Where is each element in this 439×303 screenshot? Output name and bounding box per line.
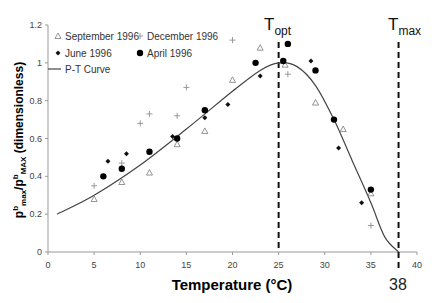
data-point-december-1996: [119, 160, 125, 166]
legend-label: December 1996: [147, 31, 219, 42]
data-point-april-1996: [146, 149, 152, 155]
x-tick-label: 30: [320, 260, 330, 270]
data-point-april-1996: [202, 107, 208, 113]
y-tick-label: 0: [37, 247, 42, 257]
legend-label: P-T Curve: [65, 64, 111, 75]
data-point-june-1996: [105, 159, 110, 164]
data-point-april-1996: [280, 58, 286, 64]
x-tick-label: 25: [274, 260, 284, 270]
legend-label: April 1996: [147, 48, 192, 59]
y-tick-label: 0.4: [29, 171, 42, 181]
legend-marker: [56, 51, 61, 56]
data-point-april-1996: [252, 60, 258, 66]
x-tick-label: 5: [92, 260, 97, 270]
data-point-april-1996: [368, 186, 374, 192]
legend: September 1996December 1996June 1996Apri…: [48, 31, 219, 75]
reference-lines: [279, 42, 399, 272]
x-tick-label: 20: [227, 260, 237, 270]
data-point-september-1996: [174, 141, 180, 147]
y-tick-label: 0.2: [29, 209, 42, 219]
data-point-june-1996: [124, 151, 129, 156]
x-tick-label: 35: [366, 260, 376, 270]
pt-curve-chart: 051015202530354000.20.40.60.811.2 Septem…: [0, 0, 439, 303]
data-point-september-1996: [202, 128, 208, 134]
data-points: [91, 37, 374, 228]
data-point-december-1996: [183, 84, 189, 90]
topt-label: Topt: [264, 15, 292, 38]
data-point-april-1996: [174, 135, 180, 141]
data-point-june-1996: [308, 58, 313, 63]
x-tick-label: 10: [135, 260, 145, 270]
data-point-september-1996: [230, 77, 236, 83]
legend-marker: [137, 50, 143, 56]
data-point-april-1996: [285, 41, 291, 47]
data-point-june-1996: [225, 102, 230, 107]
data-point-december-1996: [91, 183, 97, 189]
data-point-december-1996: [137, 120, 143, 126]
y-tick-label: 1.2: [29, 20, 42, 30]
y-tick-label: 0.6: [29, 134, 42, 144]
data-point-december-1996: [230, 37, 236, 43]
legend-marker: [55, 33, 61, 39]
pt-curve-line: [57, 63, 398, 252]
x-tick-label: 15: [181, 260, 191, 270]
data-point-december-1996: [146, 111, 152, 117]
data-point-june-1996: [258, 74, 263, 79]
data-point-september-1996: [146, 170, 152, 176]
legend-label: June 1996: [65, 48, 112, 59]
chart-svg: 051015202530354000.20.40.60.811.2 Septem…: [0, 0, 439, 303]
data-point-april-1996: [331, 116, 337, 122]
y-tick-label: 1: [37, 58, 42, 68]
x-tick-label: 40: [412, 260, 422, 270]
data-point-april-1996: [312, 67, 318, 73]
data-point-april-1996: [100, 173, 106, 179]
data-point-september-1996: [257, 45, 263, 51]
data-point-december-1996: [368, 223, 374, 229]
x-tick-label: 0: [45, 260, 50, 270]
tmax-label: Tmax: [388, 15, 421, 38]
x-axis-label: Temperature (°C): [172, 276, 293, 293]
data-point-june-1996: [359, 200, 364, 205]
legend-label: September 1996: [65, 31, 139, 42]
data-point-september-1996: [340, 126, 346, 132]
data-point-december-1996: [285, 71, 291, 77]
y-axis-label: pbmax/pbMAX (dimensionless): [11, 62, 28, 218]
data-point-december-1996: [174, 113, 180, 119]
y-tick-label: 0.8: [29, 96, 42, 106]
pt-curve-path: [57, 63, 398, 252]
data-point-september-1996: [313, 100, 319, 106]
tmax-value-label: 38: [389, 276, 407, 293]
data-point-june-1996: [336, 145, 341, 150]
data-point-april-1996: [119, 166, 125, 172]
